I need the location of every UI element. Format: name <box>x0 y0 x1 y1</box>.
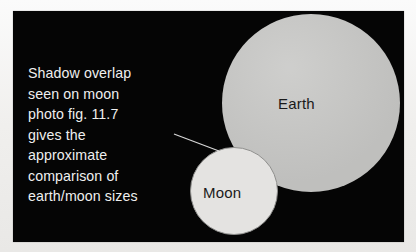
caption-line: seen on moon <box>28 84 198 105</box>
figure-panel: Earth Moon Shadow overlap seen on moon p… <box>13 11 404 242</box>
caption-line: approximate <box>28 145 198 166</box>
caption-line: photo fig. 11.7 <box>28 104 198 125</box>
caption-line: earth/moon sizes <box>28 186 198 207</box>
moon-label: Moon <box>203 184 241 201</box>
caption-text-block: Shadow overlap seen on moon photo fig. 1… <box>28 63 198 207</box>
caption-line: Shadow overlap <box>28 63 198 84</box>
caption-line: gives the <box>28 125 198 146</box>
caption-line: comparison of <box>28 166 198 187</box>
figure-page: Earth Moon Shadow overlap seen on moon p… <box>0 0 416 252</box>
earth-label: Earth <box>278 95 315 112</box>
